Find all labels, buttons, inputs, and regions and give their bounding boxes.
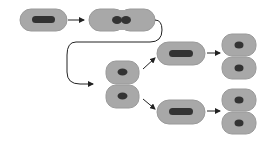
elongated-cell-upper [157, 42, 205, 65]
daughter-pair-lower [222, 89, 256, 134]
parent-cell [20, 9, 67, 31]
daughter-pair [106, 61, 139, 108]
nucleoid [32, 16, 55, 23]
daughter-pair-upper [222, 34, 256, 79]
dividing-cell [89, 9, 155, 31]
arrow-icon [143, 99, 155, 109]
cell-division-diagram [0, 0, 271, 143]
elongated-cell-lower [157, 100, 205, 124]
arrow-icon [143, 58, 155, 69]
